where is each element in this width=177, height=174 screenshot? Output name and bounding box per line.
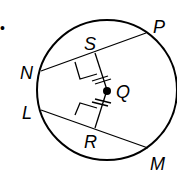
segment-qr: [95, 90, 107, 128]
center-point-q: [103, 87, 111, 95]
label-s: S: [84, 34, 96, 54]
label-n: N: [20, 63, 34, 83]
label-p: P: [153, 17, 165, 37]
right-angle-mark-r: [75, 103, 97, 115]
bullet: •: [0, 20, 5, 36]
label-r: R: [84, 132, 97, 152]
label-q: Q: [116, 82, 130, 102]
right-angle-mark-s: [75, 62, 97, 79]
tick-mark-qr-2: [92, 102, 108, 106]
label-m: M: [150, 154, 165, 174]
segment-qs: [95, 53, 107, 90]
circle-diagram: • Q N L P M S R: [0, 0, 177, 174]
label-l: L: [22, 103, 32, 123]
